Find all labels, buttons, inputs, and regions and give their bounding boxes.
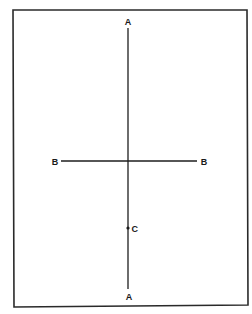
label-a-bottom: A	[126, 292, 133, 302]
diagram-canvas: A A B B C	[0, 0, 252, 314]
label-b-left: B	[52, 157, 59, 167]
point-c-marker	[126, 226, 129, 229]
label-b-right: B	[201, 157, 208, 167]
label-c: C	[132, 224, 139, 234]
diagram-frame	[13, 10, 248, 307]
label-a-top: A	[125, 17, 132, 27]
